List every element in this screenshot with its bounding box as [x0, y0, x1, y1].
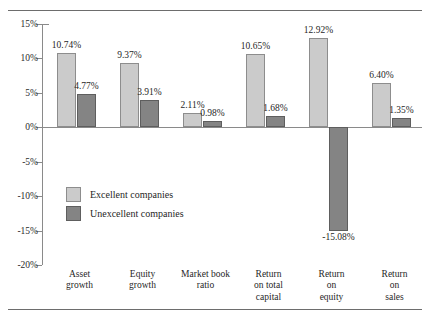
y-tick-label: 0%: [4, 122, 38, 132]
category-label-line: Return: [358, 269, 430, 280]
top-divider-rule: [8, 10, 422, 11]
category-label-line: sales: [358, 292, 430, 303]
bar-value-label: 1.68%: [253, 103, 299, 113]
y-tick-label: -20%: [4, 260, 38, 270]
legend-entry: Excellent companies: [66, 186, 184, 203]
bar-group: 2.11%0.98%: [174, 24, 237, 265]
plot-area: 10.74%4.77%9.37%3.91%2.11%0.98%10.65%1.6…: [42, 24, 422, 265]
bar-light: [309, 38, 328, 127]
bar-dark: [266, 116, 285, 128]
bar-value-label: 1.35%: [379, 105, 425, 115]
y-tick-label: 10%: [4, 53, 38, 63]
figure-title: [0, 0, 430, 9]
bar-value-label: 10.65%: [233, 41, 279, 51]
bar-dark: [329, 127, 348, 231]
bar-value-label: 10.74%: [44, 40, 90, 50]
y-tick-label: 5%: [4, 88, 38, 98]
category-label: Returnonsales: [358, 269, 430, 303]
bar-value-label: 0.98%: [190, 108, 236, 118]
y-tick-label: -15%: [4, 226, 38, 236]
bar-dark: [140, 100, 159, 127]
chart-figure: 10.74%4.77%9.37%3.91%2.11%0.98%10.65%1.6…: [0, 0, 430, 324]
legend-swatch: [66, 206, 81, 221]
legend: Excellent companiesUnexcellent companies: [66, 186, 184, 224]
bar-value-label: 3.91%: [127, 87, 173, 97]
bar-group: 10.74%4.77%: [48, 24, 111, 265]
legend-label: Excellent companies: [90, 189, 173, 200]
bar-value-label: 12.92%: [296, 25, 342, 35]
bar-value-label: 6.40%: [359, 70, 405, 80]
y-axis-line: [42, 24, 43, 265]
bar-light: [246, 54, 265, 127]
y-tick-label: 15%: [4, 19, 38, 29]
bar-group: 6.40%1.35%: [363, 24, 426, 265]
category-label-line: on: [358, 280, 430, 291]
bar-value-label: -15.08%: [316, 232, 362, 242]
bar-dark: [203, 121, 222, 128]
bar-value-label: 4.77%: [64, 81, 110, 91]
legend-label: Unexcellent companies: [90, 208, 184, 219]
bar-group: 9.37%3.91%: [111, 24, 174, 265]
bottom-divider-rule: [8, 309, 422, 310]
legend-swatch: [66, 187, 81, 202]
y-tick-label: -5%: [4, 157, 38, 167]
bar-dark: [77, 94, 96, 127]
bar-dark: [392, 118, 411, 127]
bar-group: 12.92%-15.08%: [300, 24, 363, 265]
legend-entry: Unexcellent companies: [66, 205, 184, 222]
bar-group: 10.65%1.68%: [237, 24, 300, 265]
bar-value-label: 9.37%: [107, 50, 153, 60]
y-tick-label: -10%: [4, 191, 38, 201]
